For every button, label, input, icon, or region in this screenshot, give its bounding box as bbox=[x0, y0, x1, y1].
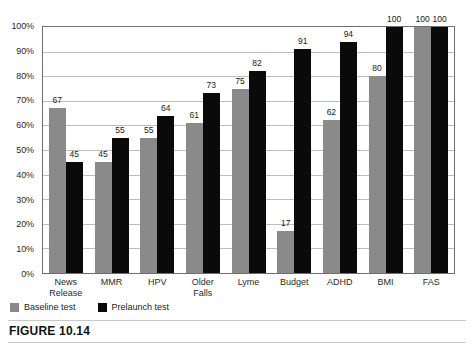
legend-item[interactable]: Baseline test bbox=[10, 303, 76, 312]
prelaunch-swatch-icon bbox=[98, 303, 107, 312]
x-axis-tick-label: ADHD bbox=[317, 277, 363, 299]
baseline-swatch-icon bbox=[10, 303, 19, 312]
x-axis-tick-label: Budget bbox=[271, 277, 317, 299]
bar[interactable]: 100 bbox=[386, 27, 403, 273]
x-axis-tick-label: Lyme bbox=[226, 277, 272, 299]
legend-label: Prelaunch test bbox=[112, 303, 170, 312]
y-axis-tick: 0% bbox=[21, 270, 34, 279]
bar[interactable]: 91 bbox=[294, 49, 311, 273]
bar[interactable]: 80 bbox=[369, 76, 386, 273]
bar-slot: 62 bbox=[323, 27, 340, 273]
bar-value-label: 55 bbox=[144, 126, 153, 135]
bar-value-label: 45 bbox=[98, 150, 107, 159]
bar-value-label: 80 bbox=[372, 64, 381, 73]
y-axis-tick: 90% bbox=[16, 46, 34, 55]
bar[interactable]: 55 bbox=[112, 138, 129, 273]
bar-value-label: 61 bbox=[190, 111, 199, 120]
bar[interactable]: 73 bbox=[203, 93, 220, 273]
bar-slot: 55 bbox=[112, 27, 129, 273]
bar[interactable]: 62 bbox=[323, 120, 340, 273]
x-axis-tick-label: BMI bbox=[363, 277, 409, 299]
bar-slot: 100 bbox=[431, 27, 448, 273]
bar-slot: 55 bbox=[140, 27, 157, 273]
chart-legend: Baseline testPrelaunch test bbox=[10, 303, 191, 312]
bar[interactable]: 45 bbox=[95, 162, 112, 273]
y-axis: 100%90%80%70%60%50%40%30%20%10%0% bbox=[0, 26, 38, 274]
figure-container: 100%90%80%70%60%50%40%30%20%10%0% 674545… bbox=[0, 0, 474, 345]
x-axis-tick-label: NewsRelease bbox=[43, 277, 89, 299]
bar-slot: 82 bbox=[249, 27, 266, 273]
bar[interactable]: 100 bbox=[431, 27, 448, 273]
caption-rule-top bbox=[8, 320, 466, 321]
bar[interactable]: 55 bbox=[140, 138, 157, 273]
bar-value-label: 75 bbox=[235, 77, 244, 86]
x-axis-label-line: Older bbox=[180, 277, 226, 288]
y-axis-tick: 50% bbox=[16, 146, 34, 155]
bar-group: 6173 bbox=[180, 27, 226, 273]
bar[interactable]: 67 bbox=[49, 108, 66, 273]
bar-slot: 45 bbox=[95, 27, 112, 273]
y-axis-tick: 100% bbox=[11, 22, 34, 31]
bar-value-label: 62 bbox=[327, 108, 336, 117]
bar-group: 4555 bbox=[89, 27, 135, 273]
bar-slot: 94 bbox=[340, 27, 357, 273]
bar[interactable]: 94 bbox=[340, 42, 357, 273]
bar-value-label: 91 bbox=[298, 37, 307, 46]
bar-value-label: 82 bbox=[252, 59, 261, 68]
bar[interactable]: 45 bbox=[66, 162, 83, 273]
bar[interactable]: 64 bbox=[157, 116, 174, 273]
bar-slot: 61 bbox=[186, 27, 203, 273]
x-axis-label-line: ADHD bbox=[317, 277, 363, 288]
legend-item[interactable]: Prelaunch test bbox=[98, 303, 170, 312]
bar-value-label: 100 bbox=[387, 15, 401, 24]
bar[interactable]: 61 bbox=[186, 123, 203, 273]
bar-slot: 67 bbox=[49, 27, 66, 273]
bar[interactable]: 75 bbox=[232, 89, 249, 274]
bar-slot: 75 bbox=[232, 27, 249, 273]
bar-group: 6294 bbox=[317, 27, 363, 273]
x-axis-tick-label: HPV bbox=[134, 277, 180, 299]
bar-slot: 91 bbox=[294, 27, 311, 273]
y-axis-tick: 70% bbox=[16, 96, 34, 105]
caption-rule-bottom bbox=[8, 342, 466, 343]
x-axis-label-line: HPV bbox=[134, 277, 180, 288]
bar[interactable]: 100 bbox=[414, 27, 431, 273]
figure-caption: FIGURE 10.14 bbox=[9, 325, 90, 338]
x-axis-label-line: FAS bbox=[408, 277, 454, 288]
y-axis-tick: 10% bbox=[16, 245, 34, 254]
bar-value-label: 73 bbox=[207, 81, 216, 90]
bar-group: 7582 bbox=[226, 27, 272, 273]
bar-value-label: 17 bbox=[281, 219, 290, 228]
x-axis-labels: NewsReleaseMMRHPVOlderFallsLymeBudgetADH… bbox=[43, 277, 454, 299]
x-axis-label-line: Lyme bbox=[226, 277, 272, 288]
bar-slot: 80 bbox=[369, 27, 386, 273]
bar[interactable]: 82 bbox=[249, 71, 266, 273]
bar-group: 1791 bbox=[271, 27, 317, 273]
bar-value-label: 45 bbox=[70, 150, 79, 159]
bar-value-label: 94 bbox=[344, 30, 353, 39]
x-axis-label-line: Falls bbox=[180, 288, 226, 299]
bar-value-label: 100 bbox=[416, 15, 430, 24]
y-axis-tick: 30% bbox=[16, 195, 34, 204]
x-axis-tick-label: MMR bbox=[89, 277, 135, 299]
bar-group: 80100 bbox=[363, 27, 409, 273]
bar-value-label: 64 bbox=[161, 104, 170, 113]
bar-slot: 73 bbox=[203, 27, 220, 273]
y-axis-tick: 80% bbox=[16, 71, 34, 80]
y-axis-tick: 20% bbox=[16, 220, 34, 229]
bar-group: 5564 bbox=[134, 27, 180, 273]
x-axis-label-line: MMR bbox=[89, 277, 135, 288]
bar-slot: 64 bbox=[157, 27, 174, 273]
x-axis-label-line: Budget bbox=[271, 277, 317, 288]
legend-label: Baseline test bbox=[24, 303, 76, 312]
bar-slot: 45 bbox=[66, 27, 83, 273]
x-axis-label-line: News bbox=[43, 277, 89, 288]
bar-slot: 100 bbox=[386, 27, 403, 273]
x-axis-tick-label: FAS bbox=[408, 277, 454, 299]
x-axis-tick-label: OlderFalls bbox=[180, 277, 226, 299]
bar[interactable]: 17 bbox=[277, 231, 294, 273]
x-axis-label-line: BMI bbox=[363, 277, 409, 288]
bar-value-label: 55 bbox=[115, 126, 124, 135]
y-axis-tick: 60% bbox=[16, 121, 34, 130]
bar-slot: 100 bbox=[414, 27, 431, 273]
